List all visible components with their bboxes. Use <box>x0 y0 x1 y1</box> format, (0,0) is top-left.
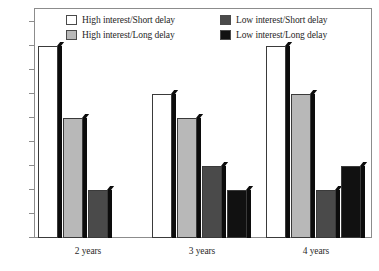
x-axis-label: 2 years <box>48 245 128 258</box>
bar[interactable] <box>38 46 58 238</box>
bar-shadow <box>311 94 315 238</box>
bar[interactable] <box>316 190 336 238</box>
bar-shadow <box>108 190 112 238</box>
x-axis-label: 4 years <box>276 245 356 258</box>
bar-chart: 0.90.80.70.60.50.40.30.20.10 2 years3 ye… <box>0 0 379 271</box>
bar-shadow <box>172 94 176 238</box>
bar[interactable] <box>227 190 247 238</box>
legend-row: High interest/Short delayLow interest/Sh… <box>66 13 358 28</box>
legend-label: High interest/Long delay <box>82 28 175 43</box>
bar-shadow <box>336 190 340 238</box>
bar[interactable] <box>63 118 83 238</box>
bar[interactable] <box>266 46 286 238</box>
bar-shadow <box>247 190 251 238</box>
x-axis-label: 3 years <box>162 245 242 258</box>
bar-shadow <box>286 46 290 238</box>
legend-row: High interest/Long delayLow interest/Lon… <box>66 28 358 43</box>
bar[interactable] <box>291 94 311 238</box>
bar-shadow <box>58 46 62 238</box>
bar-shadow <box>83 118 87 238</box>
bar[interactable] <box>152 94 172 238</box>
legend-swatch-icon <box>220 15 231 25</box>
chart-legend: High interest/Short delayLow interest/Sh… <box>66 13 358 43</box>
legend-label: Low interest/Long delay <box>236 28 327 43</box>
bar[interactable] <box>341 166 361 238</box>
legend-swatch-icon <box>66 30 77 40</box>
bar[interactable] <box>88 190 108 238</box>
legend-swatch-icon <box>66 15 77 25</box>
bar-shadow <box>222 166 226 238</box>
legend-label: Low interest/Short delay <box>236 13 328 28</box>
bar[interactable] <box>202 166 222 238</box>
bar[interactable] <box>177 118 197 238</box>
bar-shadow <box>197 118 201 238</box>
legend-label: High interest/Short delay <box>82 13 175 28</box>
legend-swatch-icon <box>220 30 231 40</box>
bar-shadow <box>361 166 365 238</box>
